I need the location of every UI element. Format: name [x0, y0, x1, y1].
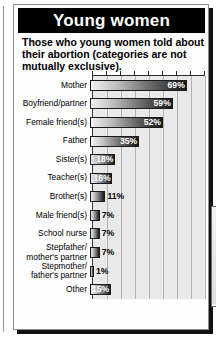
bar-track: 7% [90, 226, 202, 241]
bar-category-label: Brother(s) [18, 192, 90, 201]
bar-row: School nurse7% [18, 225, 207, 244]
bar-row: Stepfather/mother's partner7% [18, 243, 207, 262]
bar-value-label: 7% [102, 247, 114, 258]
bar-chart: Mother69%Boyfriend/partner59%Female frie… [18, 70, 207, 306]
bar-value-label: 18% [96, 154, 113, 165]
bar [90, 210, 100, 221]
bar-row: Other15% [18, 280, 207, 299]
chart-subtitle: Those who young women told about their a… [22, 36, 204, 72]
page-title: Young women [53, 12, 170, 29]
bar-category-label: Mother [18, 81, 90, 90]
bar-track: 18% [90, 152, 202, 167]
bar-row: Mother69% [18, 76, 207, 95]
bar-track: 1% [90, 264, 202, 279]
bar-value-label: 52% [144, 117, 161, 128]
bar [90, 266, 94, 277]
illustration-artwork [212, 207, 216, 304]
bar-value-label: 69% [168, 80, 185, 91]
bar-track: 15% [90, 282, 202, 297]
bar [90, 228, 100, 239]
bar-category-label-line2: father's partner [18, 271, 87, 280]
young-women-abortion-disclosure-infographic: Young women Those who young women told a… [0, 0, 216, 338]
bar-value-label: 15% [92, 284, 109, 295]
bar-category-label: Stepmother/father's partner [18, 262, 90, 281]
bar-track: 11% [90, 189, 202, 204]
bar-track: 16% [90, 171, 202, 186]
bar-category-label: School nurse [18, 229, 90, 238]
bar-row: Boyfriend/partner59% [18, 95, 207, 114]
bar-track: 52% [90, 115, 202, 130]
bar [90, 191, 105, 202]
bar-row: Female friend(s)52% [18, 113, 207, 132]
bar-category-label: Boyfriend/partner [18, 99, 90, 108]
bar-track: 7% [90, 245, 202, 260]
bar-value-label: 7% [102, 228, 114, 239]
bar-category-label: Other [18, 285, 90, 294]
bar-row: Sister(s)18% [18, 150, 207, 169]
title-bar: Young women [18, 8, 205, 33]
bar-value-label: 1% [96, 266, 108, 277]
bar [90, 247, 100, 258]
bar-value-label: 16% [93, 173, 110, 184]
bar-track: 59% [90, 96, 202, 111]
bar-row: Male friend(s)7% [18, 206, 207, 225]
infographic-card: Young women Those who young women told a… [13, 4, 209, 330]
bar-category-label: Female friend(s) [18, 118, 90, 127]
bar-category-label: Father [18, 136, 90, 145]
bar-row: Father35% [18, 132, 207, 151]
bar-value-label: 11% [107, 191, 124, 202]
card-shadow-bottom [17, 330, 213, 334]
bar-row: Teacher(s)16% [18, 169, 207, 188]
bar-category-label: Sister(s) [18, 155, 90, 164]
bar-track: 69% [90, 78, 202, 93]
left-margin-rule [3, 6, 4, 332]
bar-row: Stepmother/father's partner1% [18, 262, 207, 281]
bar-row: Brother(s)11% [18, 188, 207, 207]
bar-category-label: Teacher(s) [18, 173, 90, 182]
bar-value-label: 35% [120, 136, 137, 147]
bar-value-label: 59% [154, 98, 171, 109]
bar-value-label: 7% [102, 210, 114, 221]
bar-track: 35% [90, 134, 202, 149]
bar-rows: Mother69%Boyfriend/partner59%Female frie… [18, 76, 207, 299]
bar-track: 7% [90, 208, 202, 223]
bar-category-label: Male friend(s) [18, 211, 90, 220]
woman-embracing-young-woman-illustration [211, 206, 216, 307]
bar-category-label: Stepfather/mother's partner [18, 243, 90, 262]
